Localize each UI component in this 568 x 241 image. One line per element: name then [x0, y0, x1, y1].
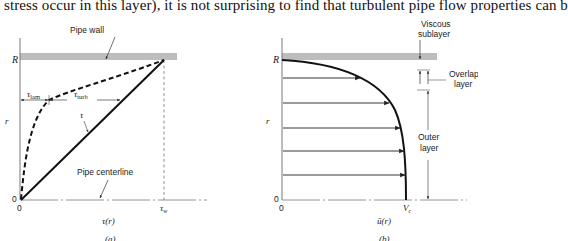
pipe-centerline-label: Pipe centerline	[77, 167, 134, 177]
y-max-label-R-b: R	[272, 54, 279, 65]
origin-x-label-a: 0	[17, 203, 22, 213]
outer-layer-label-2: layer	[420, 143, 439, 153]
v-c-label: Vc	[403, 203, 412, 214]
tau-leader	[84, 121, 88, 132]
tau-label: τ	[80, 110, 84, 120]
pipe-wall-label: Pipe wall	[70, 25, 104, 35]
pipe-centerline-leader	[100, 180, 108, 198]
origin-x-label-b: 0	[279, 203, 284, 213]
overlap-layer-label-2: layer	[454, 79, 473, 89]
caption-b: (b)	[379, 234, 390, 241]
figure-a-shear-stress: Pipe wall R r τlam τturb τ Pipe centerli…	[5, 25, 207, 241]
tau-w-label: τw	[160, 203, 167, 214]
tau-lam-label: τlam	[27, 89, 40, 100]
pipe-wall-band-b	[282, 53, 437, 60]
velocity-profile-curve	[282, 60, 406, 200]
y-max-label-R: R	[11, 54, 18, 65]
tau-total-line	[21, 60, 164, 200]
figure-b-velocity-profile: Viscous sublayer Overlap layer Outer lay…	[266, 19, 478, 241]
caption-a: (a)	[105, 234, 116, 241]
outer-layer-label-1: Outer	[418, 132, 439, 142]
x-axis-label-b: ū(r)	[377, 216, 391, 226]
pipe-wall-band	[20, 53, 177, 60]
viscous-sublayer-label-2: sublayer	[418, 29, 450, 39]
tau-turb-label: τturb	[74, 89, 88, 100]
x-axis-label-a: τ(r)	[102, 216, 115, 226]
y-axis-label-r: r	[5, 116, 9, 126]
viscous-sublayer-label-1: Viscous	[421, 19, 451, 29]
y-axis-label-r-b: r	[266, 116, 270, 126]
overlap-layer-label-1: Overlap	[449, 69, 478, 79]
